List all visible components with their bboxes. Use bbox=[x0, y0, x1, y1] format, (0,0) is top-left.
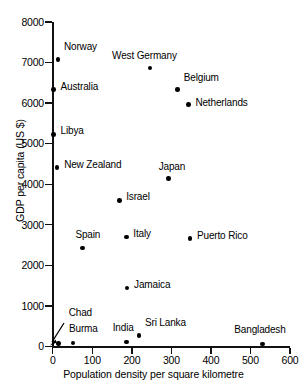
data-label-italy: Italy bbox=[133, 229, 151, 239]
data-point-netherlands bbox=[186, 102, 191, 107]
y-tick-6000 bbox=[45, 102, 52, 103]
data-label-jamaica: Jamaica bbox=[134, 280, 170, 290]
data-label-netherlands: Netherlands bbox=[195, 98, 247, 108]
y-tick-label-2000: 2000 bbox=[0, 260, 44, 271]
scatter-chart: 010002000300040005000600070008000 010020… bbox=[0, 0, 307, 385]
y-axis-title: GDP per capita (US $) bbox=[15, 91, 26, 251]
data-label-sri-lanka: Sri Lanka bbox=[145, 318, 186, 328]
data-point-spain bbox=[80, 246, 85, 251]
data-point-israel bbox=[117, 198, 122, 203]
y-tick-4000 bbox=[45, 184, 52, 185]
data-label-india: India bbox=[113, 323, 134, 333]
y-axis-line bbox=[52, 22, 54, 348]
data-point-libya bbox=[51, 132, 56, 137]
data-point-bangladesh bbox=[260, 342, 265, 347]
x-tick-100 bbox=[92, 348, 93, 354]
data-label-japan: Japan bbox=[159, 162, 186, 172]
data-point-west-germany bbox=[148, 66, 153, 71]
x-tick-label-300: 300 bbox=[151, 355, 191, 366]
data-label-puerto-rico: Puerto Rico bbox=[197, 231, 248, 241]
data-point-india bbox=[124, 340, 129, 345]
x-tick-label-100: 100 bbox=[72, 355, 112, 366]
data-label-israel: Israel bbox=[126, 192, 150, 202]
x-tick-400 bbox=[210, 348, 211, 354]
y-tick-0 bbox=[45, 346, 52, 347]
data-point-new-zealand bbox=[55, 165, 60, 170]
data-label-bangladesh: Bangladesh bbox=[234, 325, 285, 335]
data-label-chad: Chad bbox=[69, 308, 92, 318]
data-label-australia: Australia bbox=[61, 82, 99, 92]
data-label-new-zealand: New Zealand bbox=[64, 160, 121, 170]
x-tick-label-600: 600 bbox=[270, 355, 307, 366]
x-tick-label-200: 200 bbox=[112, 355, 152, 366]
x-tick-label-0: 0 bbox=[33, 355, 73, 366]
data-point-jamaica bbox=[125, 286, 130, 291]
data-label-belgium: Belgium bbox=[184, 73, 219, 83]
data-point-puerto-rico bbox=[188, 236, 193, 241]
data-label-west-germany: West Germany bbox=[112, 51, 177, 61]
y-tick-8000 bbox=[45, 21, 52, 22]
data-label-spain: Spain bbox=[75, 230, 100, 240]
y-tick-label-8000: 8000 bbox=[0, 17, 44, 28]
x-tick-200 bbox=[131, 348, 132, 354]
data-point-japan bbox=[166, 176, 171, 181]
y-tick-label-0: 0 bbox=[0, 341, 44, 352]
data-point-sri-lanka bbox=[137, 333, 142, 338]
data-point-belgium bbox=[175, 87, 180, 92]
data-label-norway: Norway bbox=[64, 42, 97, 52]
x-tick-label-500: 500 bbox=[230, 355, 270, 366]
x-tick-300 bbox=[171, 348, 172, 354]
data-label-burma: Burma bbox=[69, 324, 98, 334]
y-tick-label-7000: 7000 bbox=[0, 57, 44, 68]
x-axis-title: Population density per square kilometre bbox=[0, 369, 307, 380]
y-tick-label-1000: 1000 bbox=[0, 301, 44, 312]
data-label-libya: Libya bbox=[61, 126, 84, 136]
data-point-italy bbox=[124, 235, 129, 240]
x-tick-label-400: 400 bbox=[191, 355, 231, 366]
data-point-burma bbox=[71, 341, 76, 346]
x-tick-600 bbox=[289, 348, 290, 354]
y-tick-3000 bbox=[45, 224, 52, 225]
y-tick-5000 bbox=[45, 143, 52, 144]
x-tick-0 bbox=[52, 348, 53, 354]
y-tick-7000 bbox=[45, 62, 52, 63]
data-point-australia bbox=[51, 87, 56, 92]
y-tick-2000 bbox=[45, 265, 52, 266]
y-tick-1000 bbox=[45, 305, 52, 306]
data-point-chad bbox=[56, 341, 61, 346]
x-tick-500 bbox=[250, 348, 251, 354]
data-point-norway bbox=[56, 57, 61, 62]
